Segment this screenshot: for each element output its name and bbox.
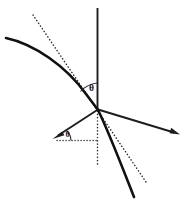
left-ray-line xyxy=(58,110,98,136)
right-ray-arrowhead xyxy=(170,128,181,135)
theta-label-upper: θ xyxy=(89,83,94,93)
right-ray-line xyxy=(98,110,174,133)
left-ray-arrowhead xyxy=(53,132,65,140)
concave-curve xyxy=(6,38,134,197)
theta-label-lower: θ xyxy=(65,130,69,139)
geometry-figure: θ θ xyxy=(0,0,192,201)
diagram-canvas: θ θ xyxy=(0,0,192,201)
